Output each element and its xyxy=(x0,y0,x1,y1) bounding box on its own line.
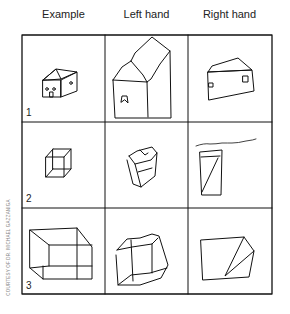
example-box xyxy=(30,228,92,279)
row-number-1: 1 xyxy=(26,107,32,118)
right-hand-shape xyxy=(201,237,254,280)
example-house xyxy=(43,69,77,97)
left-hand-box xyxy=(116,234,168,285)
drawing-grid xyxy=(0,0,290,314)
example-cube xyxy=(46,149,71,177)
left-hand-cube xyxy=(127,147,157,187)
left-hand-house xyxy=(113,37,171,118)
right-hand-figure xyxy=(196,139,256,195)
row-number-2: 2 xyxy=(26,193,32,204)
row-number-3: 3 xyxy=(26,280,32,291)
right-hand-house xyxy=(208,58,254,100)
